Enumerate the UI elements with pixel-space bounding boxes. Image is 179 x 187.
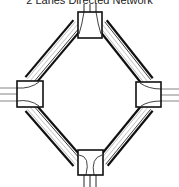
junction-right[interactable]: [136, 82, 161, 107]
road-right-bottom: [98, 103, 152, 166]
road-top-right: [97, 20, 152, 85]
road-left-bottom: [25, 103, 82, 166]
road-top-left: [25, 20, 82, 85]
junction-left[interactable]: [17, 81, 43, 107]
junctions-layer: [17, 12, 161, 175]
junction-bottom[interactable]: [78, 150, 103, 175]
junction-top[interactable]: [78, 12, 102, 38]
road-network-diagram: [0, 0, 179, 187]
roads-layer: [25, 20, 152, 166]
